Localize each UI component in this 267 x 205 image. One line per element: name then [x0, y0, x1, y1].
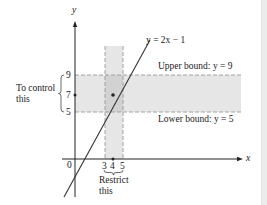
- equation-label: y = 2x − 1: [146, 36, 185, 46]
- y-tick-dot-7: [74, 94, 77, 97]
- bottom-annotation-line1: Restrict: [99, 176, 129, 186]
- y-tick-7: 7: [66, 91, 71, 101]
- left-brace-icon: [59, 75, 65, 112]
- x-tick-4: 4: [110, 162, 115, 172]
- y-tick-9: 9: [66, 71, 71, 81]
- left-annotation-line2: this: [16, 95, 30, 105]
- diagram-canvas: [0, 0, 267, 205]
- y-axis-label: y: [72, 6, 76, 16]
- horizontal-band: [75, 75, 241, 112]
- x-tick-5: 5: [120, 162, 125, 172]
- left-annotation-line1: To control: [16, 84, 55, 94]
- x-axis-arrow-icon: [237, 157, 243, 161]
- bottom-annotation-line2: this: [99, 187, 113, 197]
- x-tick-3: 3: [102, 162, 107, 172]
- y-axis-arrow-icon: [73, 21, 77, 27]
- lower-bound-label: Lower bound: y = 5: [158, 115, 234, 125]
- y-tick-5: 5: [66, 108, 71, 118]
- upper-bound-label: Upper bound: y = 9: [158, 62, 233, 72]
- page-edge: [261, 0, 267, 205]
- origin-label: 0: [67, 161, 72, 171]
- x-axis-label: x: [246, 154, 250, 164]
- point-4-7: [111, 93, 115, 97]
